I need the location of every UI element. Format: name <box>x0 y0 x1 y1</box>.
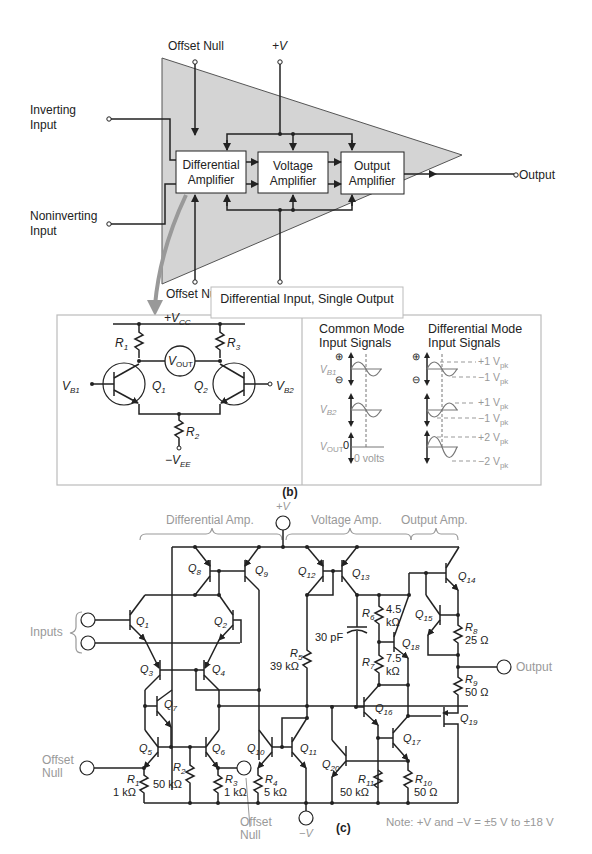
svg-text:Q4: Q4 <box>212 663 226 678</box>
voltage-note: Note: +V and −V = ±5 V to ±18 V <box>386 816 554 828</box>
svg-text:Q2: Q2 <box>214 615 228 630</box>
svg-text:Amplifier: Amplifier <box>349 174 396 188</box>
inverting-input-label: Inverting <box>30 103 76 117</box>
svg-text:4.5: 4.5 <box>386 603 401 615</box>
svg-text:1 kΩ: 1 kΩ <box>113 786 136 798</box>
svg-text:25 Ω: 25 Ω <box>465 634 489 646</box>
svg-text:Null: Null <box>240 828 261 842</box>
svg-text:Amplifier: Amplifier <box>188 173 235 187</box>
svg-text:Q11: Q11 <box>300 742 317 757</box>
plus-v-terminal-label: +V <box>276 500 291 512</box>
svg-text:50 kΩ: 50 kΩ <box>153 778 182 790</box>
output-label: Output <box>519 168 556 182</box>
svg-text:R6: R6 <box>362 607 375 622</box>
figure-b-title: Differential Input, Single Output <box>220 292 394 306</box>
svg-text:Q14: Q14 <box>458 570 476 585</box>
svg-text:0 volts: 0 volts <box>354 452 384 464</box>
svg-text:Voltage: Voltage <box>273 159 313 173</box>
offset-null-top-label: Offset Null <box>168 39 224 53</box>
svg-text:Amplifier: Amplifier <box>270 174 317 188</box>
svg-text:⊕: ⊕ <box>412 351 420 362</box>
section-output-amp: Output Amp. <box>401 513 468 527</box>
minus-v-terminal-label: −V <box>299 827 314 839</box>
figure-label-b: (b) <box>282 485 297 499</box>
svg-text:Q7: Q7 <box>164 698 178 713</box>
common-mode-title: Common Mode <box>319 322 404 336</box>
svg-text:Q8: Q8 <box>188 562 202 577</box>
svg-text:Q20: Q20 <box>322 758 340 773</box>
svg-text:Null: Null <box>42 766 63 780</box>
capacitor-label: 30 pF <box>315 631 343 643</box>
svg-text:Q5: Q5 <box>139 742 153 757</box>
offset-null-left-terminal[interactable] <box>80 761 94 775</box>
svg-text:R2: R2 <box>173 761 186 776</box>
svg-text:Q17: Q17 <box>403 732 421 747</box>
svg-text:50 Ω: 50 Ω <box>414 786 438 798</box>
svg-text:39 kΩ: 39 kΩ <box>270 660 299 672</box>
svg-text:kΩ: kΩ <box>386 665 400 677</box>
svg-text:Q13: Q13 <box>352 567 370 582</box>
svg-text:Input: Input <box>30 118 57 132</box>
svg-text:Q3: Q3 <box>140 663 154 678</box>
section-differential-amp: Differential Amp. <box>166 513 254 527</box>
svg-text:50 kΩ: 50 kΩ <box>340 786 369 798</box>
input-terminal-2[interactable] <box>81 636 95 650</box>
svg-text:⊖: ⊖ <box>412 374 420 385</box>
svg-text:Q12: Q12 <box>298 565 316 580</box>
output-terminal-label: Output <box>516 660 553 674</box>
figure-label-c: (c) <box>336 821 351 835</box>
schematic-c: Differential Amp. Voltage Amp. Output Am… <box>30 500 554 842</box>
svg-text:Q6: Q6 <box>212 742 226 757</box>
differential-amp-b: Differential Input, Single Output +VCC R… <box>57 287 541 499</box>
svg-text:Q9: Q9 <box>255 564 269 579</box>
svg-text:50 Ω: 50 Ω <box>465 686 489 698</box>
svg-text:Q1: Q1 <box>136 615 149 630</box>
svg-text:Q10: Q10 <box>247 742 265 757</box>
svg-text:0: 0 <box>343 439 349 451</box>
svg-text:Q16: Q16 <box>375 702 393 717</box>
svg-text:7.5: 7.5 <box>386 652 401 664</box>
input-terminal-1[interactable] <box>81 613 95 627</box>
minus-v-terminal[interactable] <box>299 811 313 825</box>
differential-mode-title: Differential Mode <box>428 322 522 336</box>
offset-null-left-label: Offset <box>42 753 74 767</box>
block-diagram-a: Offset Null +V Differential Amplifier Vo… <box>30 39 556 316</box>
noninverting-input-label: Noninverting <box>30 209 97 223</box>
svg-text:Q18: Q18 <box>402 637 420 652</box>
op-amp-figure: Offset Null +V Differential Amplifier Vo… <box>0 0 592 854</box>
svg-text:⊕: ⊕ <box>335 351 343 362</box>
svg-text:5 kΩ: 5 kΩ <box>264 786 287 798</box>
section-voltage-amp: Voltage Amp. <box>311 513 382 527</box>
svg-text:Input: Input <box>30 224 57 238</box>
svg-text:Input Signals: Input Signals <box>319 336 391 350</box>
svg-text:R7: R7 <box>362 656 375 671</box>
offset-null-mid-label: Offset <box>240 815 272 829</box>
inputs-label: Inputs <box>30 625 63 639</box>
svg-text:Q15: Q15 <box>415 608 433 623</box>
svg-text:Input Signals: Input Signals <box>428 336 500 350</box>
svg-text:1 kΩ: 1 kΩ <box>224 786 247 798</box>
plus-v-label: +V <box>272 39 288 53</box>
svg-text:Differential: Differential <box>182 158 239 172</box>
output-terminal[interactable] <box>497 660 511 674</box>
svg-text:Output: Output <box>354 159 391 173</box>
offset-null-mid-terminal[interactable] <box>237 761 251 775</box>
svg-text:Q19: Q19 <box>460 712 478 727</box>
